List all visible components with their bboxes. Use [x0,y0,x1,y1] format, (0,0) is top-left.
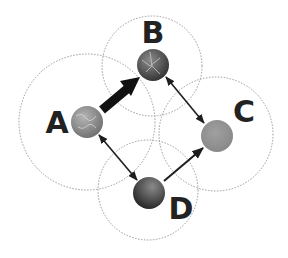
node-d-label: D [169,191,194,226]
edge-a-d-double-arrow [99,135,137,180]
node-a[interactable]: A [45,105,103,140]
node-b[interactable]: B [137,15,169,81]
network-diagram: A B C D [0,0,288,258]
node-a-label: A [45,105,69,140]
edge-d-to-c-arrow [164,148,203,181]
node-c-label: C [233,94,255,129]
node-b-sphere [137,49,169,81]
node-c[interactable]: C [201,94,255,152]
node-a-sphere [71,106,103,138]
nodes: A B C D [45,15,255,226]
node-d-sphere [133,177,165,209]
node-d[interactable]: D [133,177,193,226]
node-c-sphere [201,120,233,152]
edges [99,77,204,181]
node-b-label: B [142,15,165,50]
